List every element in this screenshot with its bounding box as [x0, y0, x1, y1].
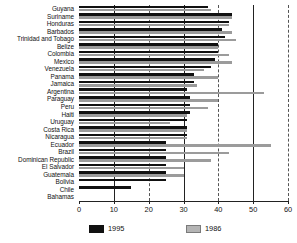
category-label: Belize: [0, 43, 74, 50]
bar-1986: [79, 107, 208, 110]
bar-1986: [79, 159, 211, 162]
bar-row: [79, 171, 288, 178]
category-label: Bahamas: [0, 193, 74, 200]
bar-1986: [79, 144, 271, 147]
bar-1986: [79, 152, 229, 155]
legend-item-1986: 1986: [186, 224, 221, 233]
category-label: Venezuela: [0, 65, 74, 72]
bar-row: [79, 118, 288, 125]
x-tick-label: 50: [249, 205, 257, 214]
x-tick-label: 60: [284, 205, 292, 214]
x-tick-label: 30: [179, 205, 187, 214]
bar-row: [79, 20, 288, 27]
category-label: Mexico: [0, 58, 74, 65]
x-tick-label: 20: [145, 205, 153, 214]
category-label: Barbados: [0, 28, 74, 35]
x-tick-60: [288, 201, 289, 204]
category-label: Guatemala: [0, 171, 74, 178]
bar-1986: [79, 129, 187, 132]
category-label: Brazil: [0, 148, 74, 155]
bar-chart: GuyanaSurinameHondurasBarbadosTrinidad a…: [0, 0, 297, 243]
legend-swatch-1986: [186, 225, 201, 233]
bar-row: [79, 111, 288, 118]
bar-row: [79, 178, 288, 185]
legend-label-1986: 1986: [205, 224, 221, 233]
bar-row: [79, 50, 288, 57]
category-label: Guyana: [0, 5, 74, 12]
x-tick-50: [253, 201, 254, 204]
category-label: Colombia: [0, 50, 74, 57]
bar-row: [79, 65, 288, 72]
bar-row: [79, 193, 288, 200]
x-tick-40: [218, 201, 219, 204]
category-label: Trinidad and Tobago: [0, 35, 74, 42]
bar-1986: [79, 114, 187, 117]
bar-1986: [79, 31, 232, 34]
bar-row: [79, 148, 288, 155]
category-label: Ecuador: [0, 141, 74, 148]
bar-row: [79, 95, 288, 102]
bar-1986: [79, 92, 264, 95]
bar-1995: [79, 186, 131, 189]
bar-row: [79, 186, 288, 193]
bar-1986: [79, 16, 232, 19]
bar-1995: [79, 179, 166, 182]
bar-row: [79, 5, 288, 12]
x-tick-label: 10: [110, 205, 118, 214]
category-label: Haiti: [0, 111, 74, 118]
bar-row: [79, 73, 288, 80]
gridline-60: [288, 5, 290, 201]
category-label: Honduras: [0, 20, 74, 27]
category-label: Nicaragua: [0, 133, 74, 140]
bar-1986: [79, 61, 232, 64]
bar-1986: [79, 69, 204, 72]
category-label: Argentina: [0, 88, 74, 95]
bar-row: [79, 156, 288, 163]
bar-1986: [79, 174, 184, 177]
category-label: Suriname: [0, 13, 74, 20]
category-label: Dominican Republic: [0, 156, 74, 163]
bar-1986: [79, 39, 236, 42]
chart-legend: 1995 1986: [0, 224, 297, 238]
x-tick-10: [114, 201, 115, 204]
bar-1986: [79, 24, 229, 27]
bar-row: [79, 88, 288, 95]
category-label: Bolivia: [0, 178, 74, 185]
bar-1986: [79, 167, 184, 170]
bar-row: [79, 103, 288, 110]
x-tick-0: [79, 201, 80, 204]
bar-1986: [79, 137, 187, 140]
category-label: Peru: [0, 103, 74, 110]
x-tick-20: [149, 201, 150, 204]
bar-row: [79, 141, 288, 148]
x-tick-30: [184, 201, 185, 204]
bar-1986: [79, 99, 218, 102]
legend-swatch-1995: [89, 225, 104, 233]
bar-row: [79, 13, 288, 20]
bar-1986: [79, 76, 218, 79]
legend-item-1995: 1995: [89, 224, 124, 233]
plot-area: [79, 5, 288, 201]
bar-row: [79, 58, 288, 65]
x-tick-label: 0: [77, 205, 81, 214]
legend-label-1995: 1995: [108, 224, 124, 233]
bar-1986: [79, 84, 197, 87]
category-label: Chile: [0, 186, 74, 193]
category-label: Panama: [0, 73, 74, 80]
bar-row: [79, 80, 288, 87]
bar-1986: [79, 46, 218, 49]
bar-1986: [79, 122, 170, 125]
category-label: El Salvador: [0, 163, 74, 170]
bar-1986: [79, 54, 229, 57]
bar-row: [79, 163, 288, 170]
bar-row: [79, 43, 288, 50]
bar-1986: [79, 9, 211, 12]
bar-row: [79, 35, 288, 42]
category-label: Paraguay: [0, 95, 74, 102]
bar-row: [79, 126, 288, 133]
category-label: Jamaica: [0, 80, 74, 87]
category-label-column: GuyanaSurinameHondurasBarbadosTrinidad a…: [0, 5, 76, 201]
bar-row: [79, 133, 288, 140]
category-label: Costa Rica: [0, 126, 74, 133]
x-tick-label: 40: [214, 205, 222, 214]
